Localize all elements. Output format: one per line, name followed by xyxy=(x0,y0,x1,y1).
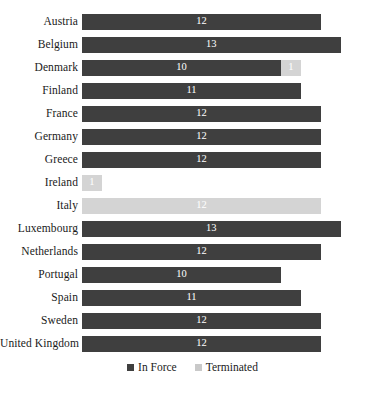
bar-segment[interactable]: 13 xyxy=(82,221,341,237)
bar-row: Germany12 xyxy=(0,125,385,148)
legend-label-in-force: In Force xyxy=(138,362,177,374)
bar-value-label: 12 xyxy=(196,200,207,211)
legend-swatch-terminated-icon xyxy=(195,364,202,371)
chart-legend: In Force Terminated xyxy=(0,362,385,374)
bar-track: 12 xyxy=(82,148,385,171)
bar-row: Spain11 xyxy=(0,286,385,309)
bar-value-label: 1 xyxy=(288,62,293,73)
bar-track: 11 xyxy=(82,79,385,102)
bar-track: 10 xyxy=(82,263,385,286)
bar-segment[interactable]: 12 xyxy=(82,336,321,352)
legend-label-terminated: Terminated xyxy=(206,362,258,374)
bar-row: Luxembourg13 xyxy=(0,217,385,240)
bar-segment[interactable]: 12 xyxy=(82,198,321,214)
bar-value-label: 12 xyxy=(196,246,207,257)
category-label: Denmark xyxy=(0,62,82,74)
bar-track: 11 xyxy=(82,286,385,309)
bar-track: 12 xyxy=(82,240,385,263)
bar-value-label: 1 xyxy=(89,177,94,188)
bar-row: Portugal10 xyxy=(0,263,385,286)
bar-value-label: 12 xyxy=(196,131,207,142)
bar-segment[interactable]: 12 xyxy=(82,14,321,30)
bar-track: 101 xyxy=(82,56,385,79)
bar-segment[interactable]: 12 xyxy=(82,152,321,168)
bar-value-label: 11 xyxy=(186,292,196,303)
bar-track: 12 xyxy=(82,102,385,125)
bar-segment[interactable]: 10 xyxy=(82,60,281,76)
bar-track: 13 xyxy=(82,33,385,56)
bar-row: France12 xyxy=(0,102,385,125)
category-label: Greece xyxy=(0,154,82,166)
bar-row: Italy12 xyxy=(0,194,385,217)
bar-value-label: 12 xyxy=(196,315,207,326)
category-label: Germany xyxy=(0,131,82,143)
bar-segment[interactable]: 1 xyxy=(82,175,102,191)
bar-row: Ireland1 xyxy=(0,171,385,194)
bar-row: Greece12 xyxy=(0,148,385,171)
category-label: Netherlands xyxy=(0,246,82,258)
bar-row: Sweden12 xyxy=(0,309,385,332)
category-label: United Kingdom xyxy=(0,338,82,350)
bar-value-label: 12 xyxy=(196,108,207,119)
legend-swatch-in-force-icon xyxy=(127,364,134,371)
bar-value-label: 10 xyxy=(176,269,187,280)
bar-segment[interactable]: 12 xyxy=(82,313,321,329)
category-label: Luxembourg xyxy=(0,223,82,235)
bar-track: 12 xyxy=(82,194,385,217)
category-label: Portugal xyxy=(0,269,82,281)
bar-value-label: 13 xyxy=(206,223,217,234)
bar-track: 13 xyxy=(82,217,385,240)
bar-row: Denmark101 xyxy=(0,56,385,79)
category-label: Sweden xyxy=(0,315,82,327)
bar-row: Austria12 xyxy=(0,10,385,33)
category-label: France xyxy=(0,108,82,120)
bar-value-label: 12 xyxy=(196,154,207,165)
category-label: Austria xyxy=(0,16,82,28)
category-label: Finland xyxy=(0,85,82,97)
bar-segment[interactable]: 12 xyxy=(82,129,321,145)
bar-value-label: 10 xyxy=(176,62,187,73)
legend-item-terminated[interactable]: Terminated xyxy=(195,362,258,374)
bar-track: 1 xyxy=(82,171,385,194)
bar-track: 12 xyxy=(82,10,385,33)
legend-item-in-force[interactable]: In Force xyxy=(127,362,177,374)
bar-segment[interactable]: 12 xyxy=(82,244,321,260)
bar-track: 12 xyxy=(82,309,385,332)
bar-segment[interactable]: 1 xyxy=(281,60,301,76)
bar-row: Netherlands12 xyxy=(0,240,385,263)
category-label: Ireland xyxy=(0,177,82,189)
bar-track: 12 xyxy=(82,332,385,355)
bar-value-label: 13 xyxy=(206,39,217,50)
bar-chart: Austria12Belgium13Denmark101Finland11Fra… xyxy=(0,0,385,402)
plot-area: Austria12Belgium13Denmark101Finland11Fra… xyxy=(0,10,385,355)
category-label: Italy xyxy=(0,200,82,212)
bar-row: United Kingdom12 xyxy=(0,332,385,355)
bar-value-label: 11 xyxy=(186,85,196,96)
bar-segment[interactable]: 10 xyxy=(82,267,281,283)
category-label: Spain xyxy=(0,292,82,304)
bar-track: 12 xyxy=(82,125,385,148)
bar-row: Belgium13 xyxy=(0,33,385,56)
category-label: Belgium xyxy=(0,39,82,51)
bar-segment[interactable]: 11 xyxy=(82,290,301,306)
bar-value-label: 12 xyxy=(196,338,207,349)
bar-value-label: 12 xyxy=(196,16,207,27)
bar-segment[interactable]: 11 xyxy=(82,83,301,99)
bar-row: Finland11 xyxy=(0,79,385,102)
bar-segment[interactable]: 13 xyxy=(82,37,341,53)
bar-segment[interactable]: 12 xyxy=(82,106,321,122)
